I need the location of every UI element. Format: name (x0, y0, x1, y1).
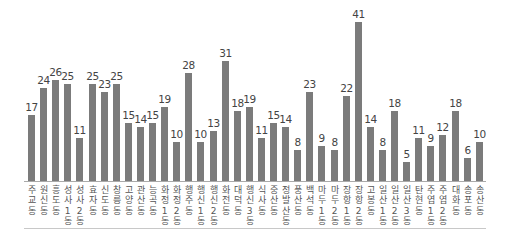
value-label: 19 (153, 94, 177, 105)
category-label: 관산동 (135, 185, 147, 216)
bar (125, 123, 132, 181)
value-label: 14 (274, 114, 298, 125)
bar (89, 84, 96, 181)
bar (391, 111, 398, 181)
category-label: 화정2동 (171, 185, 183, 227)
bar (439, 135, 446, 181)
bar (464, 158, 471, 181)
bar (476, 142, 483, 181)
category-label: 창릉동 (111, 185, 123, 216)
bar (343, 96, 350, 181)
bar (246, 107, 253, 181)
bar (113, 84, 120, 181)
category-label: 성사2동 (74, 185, 86, 227)
category-label: 식사동 (256, 185, 268, 216)
bar (318, 146, 325, 181)
category-label: 행신3동 (244, 185, 256, 227)
value-label: 10 (468, 129, 492, 140)
category-label: 고양동 (123, 185, 135, 216)
bar (149, 123, 156, 181)
value-label: 18 (383, 98, 407, 109)
bar (210, 131, 217, 181)
category-label: 행신2동 (208, 185, 220, 227)
bar (234, 111, 241, 181)
category-label: 원신동 (38, 185, 50, 216)
bar (40, 88, 47, 181)
value-label: 10 (189, 129, 213, 140)
category-label: 주엽1동 (425, 185, 437, 227)
category-label: 주엽2동 (437, 185, 449, 227)
category-label: 대덕동 (232, 185, 244, 216)
category-label: 중산동 (268, 185, 280, 216)
bar (222, 61, 229, 181)
bar (52, 80, 59, 181)
bar (28, 115, 35, 181)
category-label: 백석동 (304, 185, 316, 216)
value-label: 25 (56, 71, 80, 82)
category-label: 풍산동 (292, 185, 304, 216)
category-label: 마두1동 (316, 185, 328, 227)
category-label: 성사1동 (62, 185, 74, 227)
bar (101, 92, 108, 181)
category-label: 화정1동 (159, 185, 171, 227)
bottom-rule (24, 228, 486, 229)
value-label: 41 (347, 9, 371, 20)
category-label: 탄현동 (413, 185, 425, 216)
bar (258, 138, 265, 181)
category-label: 능곡동 (147, 185, 159, 216)
value-label: 25 (105, 71, 129, 82)
category-label: 장항1동 (341, 185, 353, 227)
category-label: 효자동 (87, 185, 99, 216)
bar (379, 150, 386, 181)
bar (331, 150, 338, 181)
bar (137, 127, 144, 181)
value-label: 12 (431, 122, 455, 133)
category-label: 행신1동 (195, 185, 207, 227)
category-label: 일산1동 (377, 185, 389, 227)
value-label: 31 (214, 48, 238, 59)
bar (161, 107, 168, 181)
category-label: 송포동 (462, 185, 474, 216)
bar (197, 142, 204, 181)
bar (427, 146, 434, 181)
bar (185, 73, 192, 181)
bar (173, 142, 180, 181)
value-label: 23 (298, 79, 322, 90)
bar (270, 123, 277, 181)
category-label: 송산동 (474, 185, 486, 216)
bar (282, 127, 289, 181)
category-label: 마두2동 (329, 185, 341, 227)
value-label: 14 (359, 114, 383, 125)
bar (294, 150, 301, 181)
category-label: 정발산동 (280, 185, 292, 227)
value-label: 11 (68, 125, 92, 136)
category-label: 일산3동 (401, 185, 413, 227)
category-label: 주교동 (26, 185, 38, 216)
value-label: 18 (444, 98, 468, 109)
bar (403, 162, 410, 181)
category-label: 대화동 (450, 185, 462, 216)
bar (76, 138, 83, 181)
bar (367, 127, 374, 181)
value-label: 19 (238, 94, 262, 105)
bar (355, 22, 362, 181)
category-label: 장항2동 (353, 185, 365, 227)
bar (415, 138, 422, 181)
category-label: 일산2동 (389, 185, 401, 227)
x-axis-baseline (24, 181, 486, 182)
category-label: 신도동 (99, 185, 111, 216)
bar-chart: 17주교동24원신동26흥도동25성사1동11성사2동25효자동23신도동25창… (0, 0, 506, 240)
value-label: 28 (177, 60, 201, 71)
category-label: 화전동 (220, 185, 232, 216)
category-label: 흥도동 (50, 185, 62, 216)
category-label: 고봉동 (365, 185, 377, 216)
category-label: 행주동 (183, 185, 195, 216)
